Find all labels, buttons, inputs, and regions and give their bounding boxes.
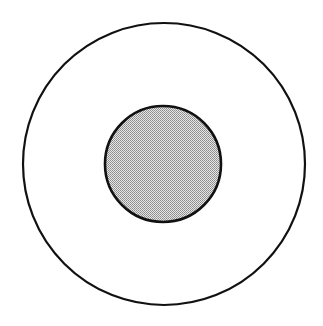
inner-shaded-circle	[105, 106, 221, 222]
concentric-circles-diagram	[0, 0, 323, 326]
